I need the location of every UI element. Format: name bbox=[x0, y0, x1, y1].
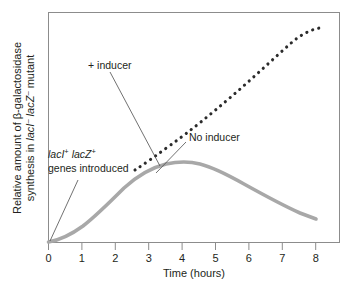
x-axis-title: Time (hours) bbox=[163, 267, 225, 279]
x-tick-label: 3 bbox=[146, 252, 152, 264]
annotation-genes-line2: genes introduced bbox=[48, 162, 129, 174]
y-axis-gene-lacz: lacZ bbox=[24, 94, 36, 116]
figure-container: 0 1 2 3 4 5 6 7 8 Time (hours) Relative … bbox=[0, 0, 354, 281]
x-tick-label: 6 bbox=[246, 252, 252, 264]
y-axis-title-line2: synthesis in lacI– lacZ– mutant bbox=[23, 55, 36, 202]
annotation-plus-inducer: + inducer bbox=[88, 59, 132, 71]
x-tick-label: 5 bbox=[212, 252, 218, 264]
annotation-no-inducer: No inducer bbox=[189, 131, 240, 143]
annotation-gene-laci: lacI bbox=[48, 148, 64, 160]
x-tick-label: 7 bbox=[279, 252, 285, 264]
annotation-gene-lacz-superscript: + bbox=[92, 147, 97, 156]
y-axis-title-line1: Relative amount of β-galactosidase bbox=[11, 42, 23, 214]
y-axis-gene-laci: lacI bbox=[24, 124, 36, 141]
x-axis-tick-labels: 0 1 2 3 4 5 6 7 8 bbox=[45, 252, 318, 264]
x-tick-label: 8 bbox=[313, 252, 319, 264]
curve-plus-inducer bbox=[135, 28, 322, 171]
annotation-gene-lacz: lacZ bbox=[72, 148, 92, 160]
x-tick-label: 0 bbox=[45, 252, 51, 264]
x-tick-label: 4 bbox=[179, 252, 185, 264]
beta-galactosidase-plot: 0 1 2 3 4 5 6 7 8 Time (hours) Relative … bbox=[0, 0, 354, 281]
plot-frame bbox=[49, 13, 340, 243]
annotation-genes-introduced: lacI+ lacZ+ genes introduced bbox=[48, 147, 129, 174]
leader-line-no-inducer bbox=[156, 142, 186, 173]
y-axis-title: Relative amount of β-galactosidase synth… bbox=[11, 42, 36, 214]
curve-no-inducer bbox=[49, 162, 317, 242]
x-tick-label: 2 bbox=[112, 252, 118, 264]
y-axis-title-line2-pre: synthesis in bbox=[24, 141, 36, 202]
annotation-genes-line1: lacI+ lacZ+ bbox=[48, 147, 97, 160]
y-axis-title-line2-post: mutant bbox=[24, 55, 36, 92]
x-axis-ticks bbox=[49, 243, 316, 250]
leader-line-plus-inducer bbox=[110, 72, 160, 166]
x-tick-label: 1 bbox=[79, 252, 85, 264]
